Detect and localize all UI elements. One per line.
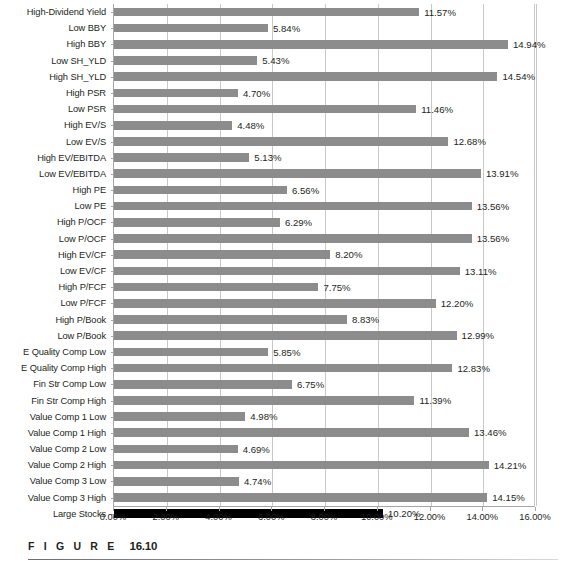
bar-value-label: 14.54%: [497, 69, 535, 84]
bar: [114, 380, 292, 389]
value-tickmark: [535, 507, 536, 511]
bar: [114, 283, 318, 292]
caption-number: 16.10: [129, 540, 157, 552]
bar-row: 14.94%: [114, 36, 534, 52]
bar-value-label: 13.11%: [460, 264, 497, 279]
category-axis: High-Dividend YieldLow BBYHigh BBYLow SH…: [0, 4, 110, 522]
value-tick-label: 16.00%: [519, 512, 551, 522]
value-tickmark: [482, 507, 483, 511]
category-label: Value Comp 3 Low: [0, 473, 110, 489]
value-tickmark: [113, 507, 114, 511]
gridline: [536, 4, 537, 506]
bar: [114, 364, 452, 373]
category-label: Large Stocks: [0, 506, 110, 522]
category-label: Low BBY: [0, 20, 110, 36]
value-tickmark: [430, 507, 431, 511]
value-tickmark: [324, 507, 325, 511]
bar-value-label: 6.75%: [292, 377, 324, 392]
category-label: Low PSR: [0, 101, 110, 117]
bar-row: 13.91%: [114, 166, 534, 182]
bar-value-label: 8.20%: [330, 247, 362, 262]
bar: [114, 299, 436, 308]
bar-value-label: 12.20%: [436, 296, 474, 311]
bar-value-label: 6.56%: [287, 183, 319, 198]
category-label: High EV/S: [0, 117, 110, 133]
bar-value-label: 12.68%: [448, 134, 486, 149]
bar-value-label: 4.74%: [239, 474, 271, 489]
bar-value-label: 6.29%: [280, 215, 312, 230]
value-tick-label: 4.00%: [205, 512, 231, 522]
bar-value-label: 13.56%: [472, 231, 510, 246]
bar-row: 4.48%: [114, 117, 534, 133]
bar-row: 11.39%: [114, 393, 534, 409]
value-axis: 0.00%2.00%4.00%6.00%8.00%10.00%12.00%14.…: [113, 512, 535, 528]
bar: [114, 396, 414, 405]
bar-value-label: 11.39%: [414, 393, 451, 408]
bar: [114, 493, 487, 502]
bar: [114, 169, 481, 178]
bar: [114, 56, 257, 65]
bar: [114, 89, 238, 98]
category-label: High PE: [0, 182, 110, 198]
bar: [114, 121, 232, 130]
category-label: Low PE: [0, 198, 110, 214]
bar-row: 5.85%: [114, 344, 534, 360]
category-label: High SH_YLD: [0, 69, 110, 85]
category-label: Fin Str Comp Low: [0, 376, 110, 392]
value-tick-label: 10.00%: [361, 512, 393, 522]
bar: [114, 202, 472, 211]
bar-row: 4.98%: [114, 409, 534, 425]
bar-row: 6.29%: [114, 214, 534, 230]
bar: [114, 105, 416, 114]
bar-row: 8.20%: [114, 247, 534, 263]
bar-row: 12.83%: [114, 360, 534, 376]
bar-value-label: 5.84%: [268, 21, 300, 36]
category-label: E Quality Comp Low: [0, 344, 110, 360]
figure-root: High-Dividend YieldLow BBYHigh BBYLow SH…: [0, 0, 568, 565]
bar: [114, 250, 330, 259]
value-tickmark: [377, 507, 378, 511]
bar-row: 12.99%: [114, 328, 534, 344]
bar-value-label: 12.99%: [457, 328, 495, 343]
bar: [114, 40, 508, 49]
bar-value-label: 14.94%: [508, 37, 546, 52]
bar: [114, 137, 448, 146]
category-label: Value Comp 2 Low: [0, 441, 110, 457]
category-label: Low P/Book: [0, 328, 110, 344]
bar-row: 6.75%: [114, 376, 534, 392]
category-label: Low EV/S: [0, 134, 110, 150]
value-tickmark: [271, 507, 272, 511]
bar: [114, 218, 280, 227]
caption-divider: [28, 559, 558, 560]
bar-row: 4.69%: [114, 441, 534, 457]
caption-label: F I G U R E: [28, 540, 117, 552]
bar-row: 14.15%: [114, 490, 534, 506]
category-label: High BBY: [0, 36, 110, 52]
category-label: E Quality Comp High: [0, 360, 110, 376]
bar-row: 11.46%: [114, 101, 534, 117]
value-tick-label: 0.00%: [100, 512, 126, 522]
bar-row: 12.20%: [114, 295, 534, 311]
bar: [114, 331, 457, 340]
category-label: Value Comp 1 High: [0, 425, 110, 441]
bar-value-label: 12.83%: [452, 361, 490, 376]
bar: [114, 428, 469, 437]
bar-row: 5.84%: [114, 20, 534, 36]
bar-value-label: 11.46%: [416, 102, 453, 117]
bar: [114, 461, 489, 470]
bar-row: 13.56%: [114, 231, 534, 247]
bar: [114, 234, 472, 243]
bar: [114, 445, 238, 454]
bar: [114, 153, 249, 162]
bar-row: 7.75%: [114, 279, 534, 295]
category-label: High P/Book: [0, 312, 110, 328]
bar-series: 11.57%5.84%14.94%5.43%14.54%4.70%11.46%4…: [114, 4, 534, 506]
value-tick-label: 12.00%: [414, 512, 446, 522]
bar-value-label: 7.75%: [318, 280, 350, 295]
bar-row: 14.21%: [114, 457, 534, 473]
value-tick-label: 8.00%: [311, 512, 337, 522]
bar-row: 12.68%: [114, 134, 534, 150]
bar-value-label: 4.69%: [238, 442, 270, 457]
bar-row: 13.46%: [114, 425, 534, 441]
category-label: Low P/FCF: [0, 295, 110, 311]
